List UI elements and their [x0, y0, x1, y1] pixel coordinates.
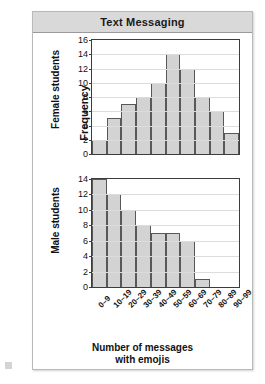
y-axis-tick-mark — [89, 179, 92, 180]
bar — [210, 111, 225, 154]
y-axis-tick-label: 10 — [78, 205, 88, 215]
bar — [151, 83, 166, 154]
gridline — [92, 97, 239, 98]
x-axis-tick-cell: 0–9 — [91, 300, 106, 342]
y-axis-tick-mark — [89, 111, 92, 112]
bar — [121, 210, 136, 287]
bar — [92, 140, 107, 154]
gridline — [92, 126, 239, 127]
y-axis-tick-mark — [89, 97, 92, 98]
page-artifact — [5, 362, 12, 369]
y-axis-tick-label: 6 — [83, 236, 88, 246]
y-axis-tick-label: 10 — [78, 78, 88, 88]
y-axis-tick-label: 12 — [78, 189, 88, 199]
y-axis-tick-mark — [89, 40, 92, 41]
x-axis-tick-cell: 60–69 — [180, 300, 195, 342]
x-axis-title-line2: with emojis — [33, 354, 252, 366]
gridline — [92, 194, 239, 195]
gridline — [92, 140, 239, 141]
x-axis-tick-cell: 70–79 — [195, 300, 210, 342]
y-axis-tick-mark — [89, 126, 92, 127]
y-axis-tick-mark — [89, 256, 92, 257]
y-axis-tick-label: 14 — [78, 174, 88, 184]
y-axis-tick-label: 8 — [83, 220, 88, 230]
x-axis-tick-cell: 30–39 — [136, 300, 151, 342]
gridline — [92, 256, 239, 257]
y-axis-tick-label: 6 — [83, 106, 88, 116]
bar — [107, 118, 122, 154]
x-axis-title-line1: Number of messages — [33, 342, 252, 354]
plot-area-female: 0246810121416 — [91, 39, 240, 155]
gridline — [92, 241, 239, 242]
y-axis-tick-mark — [89, 154, 92, 155]
plot-area-male: 02468101214 — [91, 178, 240, 288]
x-axis-tick-cell: 90–99 — [225, 300, 240, 342]
y-axis-tick-label: 0 — [83, 282, 88, 292]
gridline — [92, 225, 239, 226]
chart-figure: Text Messaging Frequency Female students… — [32, 11, 253, 370]
panel-female-students: Female students 0246810121416 — [33, 34, 252, 167]
x-axis-tick-labels: 0–910–1920–2930–3940–4950–5960–6970–7980… — [91, 300, 240, 342]
chart-title-banner: Text Messaging — [33, 12, 252, 33]
x-axis-tick-cell: 20–29 — [121, 300, 136, 342]
y-axis-tick-label: 14 — [78, 49, 88, 59]
y-axis-tick-mark — [89, 83, 92, 84]
y-axis-tick-label: 4 — [83, 121, 88, 131]
x-axis-title: Number of messages with emojis — [33, 342, 252, 366]
y-axis-tick-mark — [89, 69, 92, 70]
y-axis-tick-label: 2 — [83, 135, 88, 145]
y-axis-tick-mark — [89, 272, 92, 273]
x-axis-tick-cell: 80–89 — [210, 300, 225, 342]
gridline — [92, 210, 239, 211]
y-axis-tick-label: 8 — [83, 92, 88, 102]
gridline — [92, 69, 239, 70]
y-axis-tick-mark — [89, 140, 92, 141]
panel-male-students: Male students 02468101214 — [33, 167, 252, 300]
y-axis-tick-label: 2 — [83, 267, 88, 277]
y-axis-tick-label: 16 — [78, 35, 88, 45]
y-axis-tick-mark — [89, 54, 92, 55]
x-axis-tick-cell: 10–19 — [106, 300, 121, 342]
y-axis-tick-label: 12 — [78, 64, 88, 74]
x-axis-tick-cell: 50–59 — [166, 300, 181, 342]
bar — [224, 133, 239, 154]
y-axis-tick-mark — [89, 225, 92, 226]
y-axis-tick-mark — [89, 210, 92, 211]
gridline — [92, 83, 239, 84]
chart-title: Text Messaging — [100, 16, 185, 28]
y-axis-tick-label: 4 — [83, 251, 88, 261]
panel-male-axis-label: Male students — [50, 161, 61, 281]
y-axis-tick-mark — [89, 241, 92, 242]
y-axis-tick-mark — [89, 194, 92, 195]
bar — [180, 241, 195, 287]
x-axis-tick-cell: 40–49 — [151, 300, 166, 342]
gridline — [92, 54, 239, 55]
y-axis-tick-label: 0 — [83, 149, 88, 159]
gridline — [92, 272, 239, 273]
y-axis-tick-mark — [89, 287, 92, 288]
panel-female-axis-label: Female students — [50, 30, 61, 150]
gridline — [92, 111, 239, 112]
bar — [195, 279, 210, 287]
